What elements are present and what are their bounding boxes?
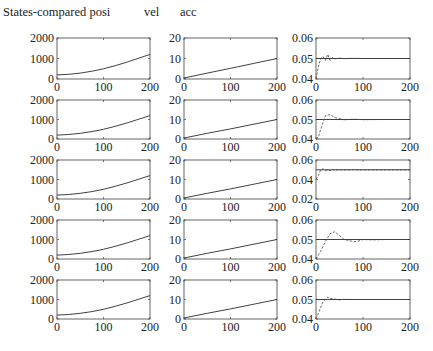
y-tick-label: 1000 — [30, 113, 54, 127]
axes-box — [316, 160, 410, 199]
posi-line — [57, 176, 150, 196]
axes-box — [184, 160, 277, 199]
y-tick-label: 0.05 — [292, 293, 313, 307]
x-tick-label: 0 — [54, 320, 60, 334]
axes-box — [184, 220, 277, 259]
y-tick-label: 2000 — [30, 31, 54, 45]
y-tick-label: 20 — [169, 93, 181, 107]
x-tick-label: 100 — [222, 80, 240, 94]
acc-estimate-line — [316, 115, 410, 139]
x-tick-label: 100 — [354, 200, 372, 214]
axes-box — [184, 38, 277, 79]
subplot-r2-acc: 01002000.040.050.06 — [292, 93, 419, 154]
subplot-r4-vel: 010020001020 — [169, 213, 286, 274]
y-tick-label: 0.05 — [292, 233, 313, 247]
x-tick-label: 100 — [354, 80, 372, 94]
x-tick-label: 200 — [268, 140, 286, 154]
vel-line — [184, 300, 277, 319]
axes-box — [57, 160, 150, 199]
x-tick-label: 200 — [401, 80, 419, 94]
x-tick-label: 0 — [54, 200, 60, 214]
x-tick-label: 0 — [54, 260, 60, 274]
vel-line — [184, 120, 277, 139]
x-tick-label: 0 — [181, 80, 187, 94]
vel-line — [184, 240, 277, 259]
y-tick-label: 0.05 — [292, 52, 313, 66]
vel-line — [184, 180, 277, 199]
x-tick-label: 200 — [401, 260, 419, 274]
y-tick-label: 10 — [169, 113, 181, 127]
y-tick-label: 10 — [169, 233, 181, 247]
x-tick-label: 0 — [313, 200, 319, 214]
axes-box — [57, 220, 150, 259]
x-tick-label: 100 — [222, 140, 240, 154]
states-compared-figure: States-compared posi vel acc 01002000100… — [0, 0, 433, 351]
posi-line — [57, 116, 150, 136]
x-tick-label: 0 — [313, 80, 319, 94]
subplot-r3-acc: 01002000.020.040.06 — [292, 153, 419, 214]
acc-estimate-line — [316, 297, 410, 319]
x-tick-label: 200 — [141, 140, 159, 154]
subplot-r5-vel: 010020001020 — [169, 273, 286, 334]
y-tick-label: 0 — [48, 192, 54, 206]
y-tick-label: 0 — [175, 72, 181, 86]
posi-line — [57, 54, 150, 75]
subplot-r4-posi: 0100200010002000 — [30, 213, 159, 274]
posi-line — [57, 236, 150, 256]
x-tick-label: 100 — [354, 260, 372, 274]
x-tick-label: 100 — [95, 320, 113, 334]
x-tick-label: 200 — [141, 260, 159, 274]
y-tick-label: 10 — [169, 173, 181, 187]
x-tick-label: 0 — [313, 140, 319, 154]
y-tick-label: 20 — [169, 273, 181, 287]
x-tick-label: 200 — [268, 260, 286, 274]
y-tick-label: 1000 — [30, 293, 54, 307]
y-tick-label: 0 — [175, 132, 181, 146]
subplot-r4-acc: 01002000.040.050.06 — [292, 213, 419, 274]
y-tick-label: 0 — [48, 312, 54, 326]
subplot-r2-posi: 0100200010002000 — [30, 93, 159, 154]
axes-box — [57, 280, 150, 319]
x-tick-label: 0 — [313, 320, 319, 334]
y-tick-label: 0.04 — [292, 132, 313, 146]
subplot-r5-posi: 0100200010002000 — [30, 273, 159, 334]
y-tick-label: 1000 — [30, 52, 54, 66]
x-tick-label: 200 — [141, 200, 159, 214]
y-tick-label: 10 — [169, 52, 181, 66]
y-tick-label: 0.05 — [292, 113, 313, 127]
y-tick-label: 10 — [169, 293, 181, 307]
x-tick-label: 100 — [222, 200, 240, 214]
x-tick-label: 100 — [95, 140, 113, 154]
axes-box — [57, 38, 150, 79]
x-tick-label: 200 — [401, 200, 419, 214]
y-tick-label: 2000 — [30, 93, 54, 107]
y-tick-label: 0.04 — [292, 312, 313, 326]
y-tick-label: 1000 — [30, 233, 54, 247]
x-tick-label: 0 — [54, 80, 60, 94]
x-tick-label: 200 — [268, 80, 286, 94]
y-tick-label: 20 — [169, 213, 181, 227]
y-tick-label: 0.06 — [292, 153, 313, 167]
x-tick-label: 100 — [95, 80, 113, 94]
y-tick-label: 0 — [175, 312, 181, 326]
acc-estimate-line — [316, 169, 410, 180]
x-tick-label: 200 — [141, 320, 159, 334]
axes-box — [184, 100, 277, 139]
subplot-r2-vel: 010020001020 — [169, 93, 286, 154]
y-tick-label: 0 — [175, 252, 181, 266]
subplot-grid: 010020001000200001002000102001002000.040… — [0, 0, 433, 351]
y-tick-label: 0.06 — [292, 31, 313, 45]
x-tick-label: 100 — [95, 260, 113, 274]
x-tick-label: 100 — [354, 320, 372, 334]
subplot-r5-acc: 01002000.040.050.06 — [292, 273, 419, 334]
y-tick-label: 2000 — [30, 273, 54, 287]
y-tick-label: 20 — [169, 31, 181, 45]
posi-line — [57, 296, 150, 316]
subplot-r3-vel: 010020001020 — [169, 153, 286, 214]
y-tick-label: 0.06 — [292, 213, 313, 227]
y-tick-label: 0 — [48, 252, 54, 266]
acc-estimate-line — [316, 232, 410, 259]
y-tick-label: 0.04 — [292, 173, 313, 187]
x-tick-label: 200 — [268, 320, 286, 334]
y-tick-label: 0.06 — [292, 93, 313, 107]
